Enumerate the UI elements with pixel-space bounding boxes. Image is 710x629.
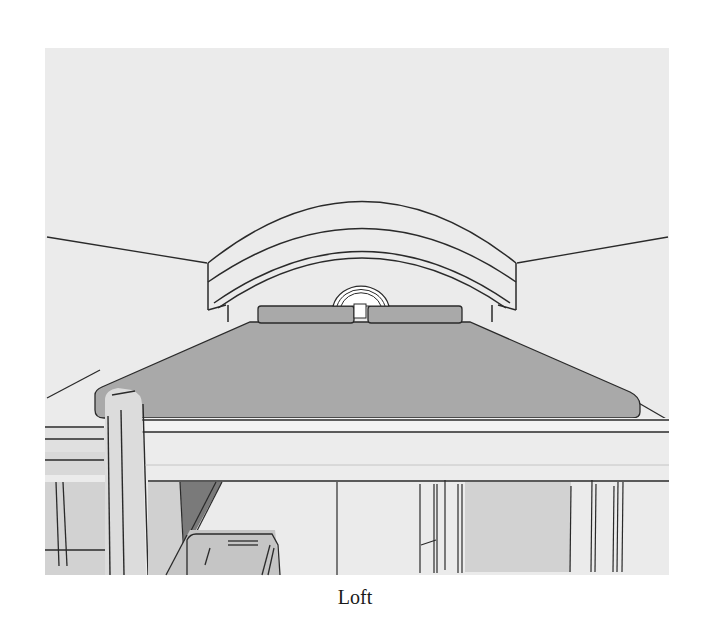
loft-figure: Loft [0,0,710,629]
loft-beams [140,418,669,482]
left-wall [45,427,110,575]
column [105,388,148,575]
figure-caption: Loft [0,586,710,609]
loft-drawing [0,0,710,629]
